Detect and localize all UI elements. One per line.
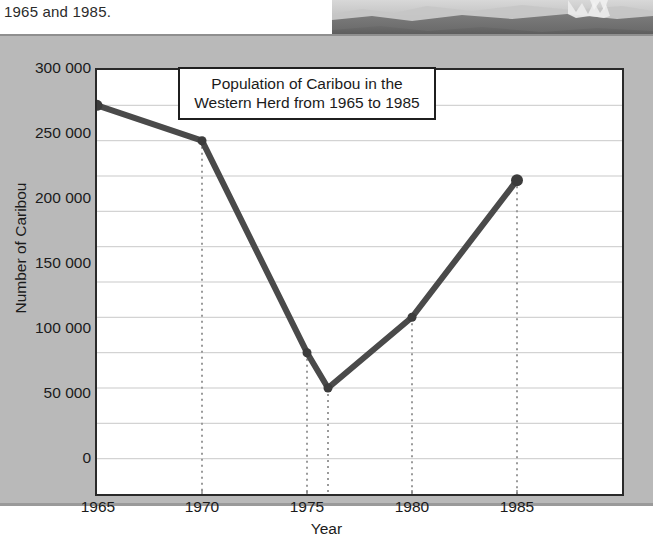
data-point-1975 — [303, 348, 312, 357]
data-point-markers — [97, 100, 523, 393]
x-tick-marks — [202, 490, 517, 494]
chart-title-line1: Population of Caribou in the — [186, 74, 428, 93]
x-axis-ticks: 1965 1970 1975 1980 1985 — [0, 498, 653, 522]
data-point-1976 — [324, 384, 333, 393]
x-axis-label: Year — [0, 520, 653, 538]
data-point-1970 — [198, 136, 207, 145]
y-axis-label: Number of Caribou — [12, 148, 30, 348]
y-tick-50000: 50 000 — [3, 384, 91, 402]
x-tick-1965: 1965 — [58, 498, 138, 516]
x-tick-1975: 1975 — [267, 498, 347, 516]
data-point-1980 — [408, 313, 417, 322]
chart-title-line2: Western Herd from 1965 to 1985 — [186, 93, 428, 112]
x-tick-1970: 1970 — [162, 498, 242, 516]
y-tick-250000: 250 000 — [3, 124, 91, 142]
chart-figure-panel: 300 000 250 000 200 000 150 000 100 000 … — [0, 34, 653, 506]
line-chart-svg — [97, 70, 622, 494]
data-point-1985 — [511, 174, 523, 186]
plot-area — [95, 68, 624, 496]
x-tick-1985: 1985 — [477, 498, 557, 516]
y-tick-0: 0 — [3, 449, 91, 467]
gridlines — [97, 105, 622, 458]
y-tick-300000: 300 000 — [3, 59, 91, 77]
panel-top-rule — [0, 34, 653, 36]
body-text-fragment: 1965 and 1985. — [4, 3, 111, 20]
x-tick-1980: 1980 — [372, 498, 452, 516]
chart-title: Population of Caribou in the Western Her… — [178, 67, 436, 120]
